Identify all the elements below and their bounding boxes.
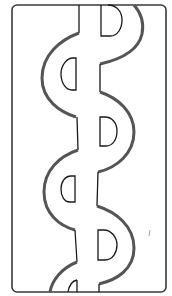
band-left-segment-2 bbox=[77, 117, 78, 150]
half-circle-4 bbox=[61, 176, 75, 202]
drawing-canvas: Serpentine band line drawing bbox=[0, 0, 172, 296]
band-right-segment-2 bbox=[97, 172, 98, 206]
frame bbox=[12, 5, 166, 292]
band-left-curve-3 bbox=[50, 262, 77, 292]
serpentine-drawing bbox=[0, 0, 172, 296]
half-circle-1 bbox=[101, 5, 122, 36]
half-circle-6 bbox=[68, 280, 77, 292]
half-circle-3 bbox=[100, 117, 117, 146]
band-right-curve-2 bbox=[97, 206, 134, 284]
half-circle-2 bbox=[61, 58, 76, 90]
half-circle-5 bbox=[98, 230, 117, 260]
band-left-segment-3 bbox=[75, 230, 77, 262]
band-right-curve-1 bbox=[98, 92, 134, 172]
stray-mark bbox=[149, 230, 150, 236]
